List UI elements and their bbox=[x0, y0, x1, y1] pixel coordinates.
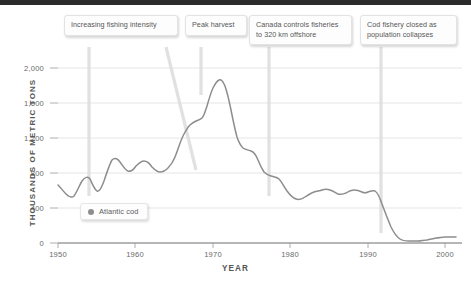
xtick-label-1980: 1980 bbox=[272, 250, 308, 259]
xtick-label-1990: 1990 bbox=[350, 250, 386, 259]
y-axis-title: THOUSANDS OF METRIC TONS bbox=[28, 68, 37, 238]
x-axis-title: YEAR bbox=[0, 264, 471, 273]
chart-legend: Atlantic cod bbox=[80, 203, 148, 220]
legend-dot-icon bbox=[88, 209, 94, 215]
ytick-label-0: 0 bbox=[10, 239, 44, 248]
xtick-label-2000: 2000 bbox=[427, 250, 463, 259]
y-tick-marks bbox=[50, 68, 58, 243]
xtick-label-1950: 1950 bbox=[40, 250, 76, 259]
annotation-increasing-fishing-intensity: Increasing fishing intensity bbox=[64, 15, 178, 36]
xtick-label-1970: 1970 bbox=[195, 250, 231, 259]
x-tick-marks bbox=[58, 243, 445, 248]
cod-fishery-chart: 2,000 1,600 1,200 800 400 0 1950 1960 19… bbox=[0, 0, 471, 282]
annotation-canada-controls-fisheries: Canada controls fisheries to 320 km offs… bbox=[249, 15, 352, 45]
xtick-label-1960: 1960 bbox=[117, 250, 153, 259]
pointer-increasing-fishing-right bbox=[166, 47, 196, 170]
legend-label-atlantic-cod: Atlantic cod bbox=[99, 207, 138, 216]
annotation-cod-fishery-closed: Cod fishery closed as population collaps… bbox=[360, 15, 457, 45]
annotation-peak-harvest: Peak harvest bbox=[185, 15, 247, 36]
gridlines bbox=[58, 68, 462, 208]
